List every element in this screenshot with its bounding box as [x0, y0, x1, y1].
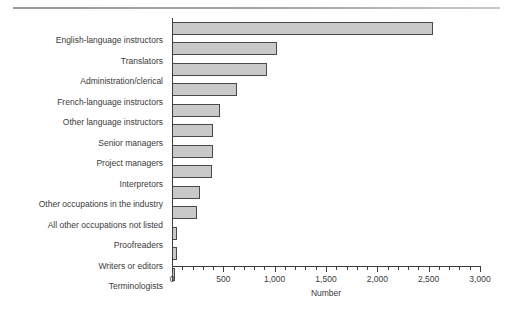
- bar: [172, 104, 220, 117]
- x-axis-major-tick: [223, 267, 224, 272]
- category-label: French-language instructors: [0, 92, 168, 113]
- bar: [172, 206, 197, 219]
- bar-row: [172, 182, 480, 203]
- category-label: Other occupations in the industry: [0, 194, 168, 215]
- x-axis-minor-tick: [357, 267, 358, 270]
- x-tick-label: 500: [216, 274, 230, 284]
- bar: [172, 63, 267, 76]
- bar-row: [172, 223, 480, 244]
- category-label: Terminologists: [0, 276, 168, 297]
- plot-area: [172, 18, 480, 267]
- bar-row: [172, 39, 480, 60]
- category-label: Other language instructors: [0, 112, 168, 133]
- x-axis-major-tick: [275, 267, 276, 272]
- x-axis-minor-tick: [347, 267, 348, 270]
- y-axis-line: [172, 18, 173, 267]
- bar-row: [172, 80, 480, 101]
- x-axis-minor-tick: [203, 267, 204, 270]
- x-axis-minor-tick: [336, 267, 337, 270]
- x-axis-minor-tick: [449, 267, 450, 270]
- x-tick-label: 2,500: [418, 274, 439, 284]
- category-axis-labels: English-language instructorsTranslatorsA…: [0, 30, 168, 276]
- x-axis-minor-tick: [295, 267, 296, 270]
- category-label: Proofreaders: [0, 235, 168, 256]
- horizontal-rule: [13, 7, 500, 9]
- x-axis-minor-tick: [316, 267, 317, 270]
- x-tick-label: 1,500: [315, 274, 336, 284]
- x-axis-major-tick: [172, 267, 173, 272]
- x-axis-minor-tick: [254, 267, 255, 270]
- x-axis-minor-tick: [213, 267, 214, 270]
- category-label: Interpretors: [0, 174, 168, 195]
- x-axis-minor-tick: [234, 267, 235, 270]
- category-label: Administration/clerical: [0, 71, 168, 92]
- x-tick-label: 2,000: [367, 274, 388, 284]
- bar-row: [172, 100, 480, 121]
- x-tick-label: 3,000: [469, 274, 490, 284]
- x-tick-label: 0: [170, 274, 175, 284]
- x-axis-minor-tick: [367, 267, 368, 270]
- bar-row: [172, 162, 480, 183]
- bar-row: [172, 18, 480, 39]
- bar: [172, 186, 200, 199]
- bar: [172, 22, 433, 35]
- bar-row: [172, 203, 480, 224]
- x-axis-minor-tick: [408, 267, 409, 270]
- x-axis-minor-tick: [398, 267, 399, 270]
- x-axis-minor-tick: [459, 267, 460, 270]
- bar-row: [172, 141, 480, 162]
- x-axis-minor-tick: [388, 267, 389, 270]
- x-axis-minor-tick: [182, 267, 183, 270]
- x-axis-title: Number: [172, 288, 480, 298]
- bar-series: [172, 18, 480, 264]
- category-label: Writers or editors: [0, 256, 168, 277]
- x-axis-minor-tick: [285, 267, 286, 270]
- category-label: Senior managers: [0, 133, 168, 154]
- category-label: English-language instructors: [0, 30, 168, 51]
- x-axis-minor-tick: [418, 267, 419, 270]
- bar-row: [172, 244, 480, 265]
- bar: [172, 42, 277, 55]
- category-label: Project managers: [0, 153, 168, 174]
- x-axis-major-tick: [326, 267, 327, 272]
- x-axis-minor-tick: [193, 267, 194, 270]
- bar-chart: English-language instructorsTranslatorsA…: [0, 12, 511, 318]
- bar: [172, 165, 212, 178]
- x-axis-minor-tick: [470, 267, 471, 270]
- x-axis-major-tick: [429, 267, 430, 272]
- x-axis-major-tick: [377, 267, 378, 272]
- x-axis-minor-tick: [439, 267, 440, 270]
- category-label: Translators: [0, 51, 168, 72]
- x-axis-minor-tick: [305, 267, 306, 270]
- x-axis-major-tick: [480, 267, 481, 272]
- bar: [172, 145, 213, 158]
- category-label: All other occupations not listed: [0, 215, 168, 236]
- x-axis-minor-tick: [264, 267, 265, 270]
- bar-row: [172, 59, 480, 80]
- bar: [172, 124, 213, 137]
- bar-row: [172, 121, 480, 142]
- x-axis-minor-tick: [244, 267, 245, 270]
- bar: [172, 83, 237, 96]
- x-tick-label: 1,000: [264, 274, 285, 284]
- top-caption-band: [0, 0, 511, 12]
